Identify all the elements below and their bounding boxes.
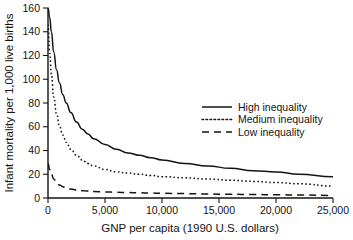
legend-label: High inequality: [238, 101, 308, 113]
y-tick-label: 60: [28, 120, 40, 132]
y-tick-label: 160: [22, 2, 40, 14]
y-tick-label: 40: [28, 144, 40, 156]
y-axis-title: Infant mortality per 1,000 live births: [3, 13, 15, 192]
x-tick-group: 05,00010,00015,00020,00025,000: [45, 198, 349, 216]
y-tick-label: 80: [28, 97, 40, 109]
series-dashed: [48, 164, 333, 196]
chart-legend: High inequalityMedium inequalityLow ineq…: [202, 101, 323, 138]
series-solid: [48, 8, 333, 177]
y-tick-label: 140: [22, 25, 40, 37]
x-tick-label: 0: [45, 204, 51, 216]
y-tick-label: 0: [34, 192, 40, 204]
x-tick-label: 10,000: [146, 204, 178, 216]
y-tick-label: 100: [22, 73, 40, 85]
y-tick-group: 020406080100120140160: [22, 2, 48, 204]
x-tick-label: 25,000: [317, 204, 349, 216]
x-tick-label: 20,000: [260, 204, 292, 216]
x-tick-label: 15,000: [203, 204, 235, 216]
x-axis: 05,00010,00015,00020,00025,000 GNP per c…: [45, 198, 349, 234]
legend-label: Medium inequality: [238, 113, 323, 125]
chart-canvas: 020406080100120140160 Infant mortality p…: [0, 0, 353, 240]
y-tick-label: 120: [22, 49, 40, 61]
infant-mortality-chart: 020406080100120140160 Infant mortality p…: [0, 0, 353, 240]
legend-label: Low inequality: [238, 126, 305, 138]
x-tick-label: 5,000: [92, 204, 118, 216]
x-axis-title: GNP per capita (1990 U.S. dollars): [101, 222, 279, 234]
y-tick-label: 20: [28, 168, 40, 180]
y-axis: 020406080100120140160 Infant mortality p…: [3, 2, 48, 204]
